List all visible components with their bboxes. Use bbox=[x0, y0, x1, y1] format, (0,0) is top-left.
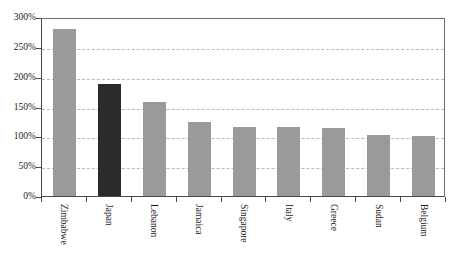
y-axis-tick-label: 100% bbox=[0, 133, 36, 143]
y-axis-tick-label: 300% bbox=[0, 13, 36, 23]
y-axis-tick-label: 50% bbox=[0, 162, 36, 172]
x-axis-category-label-text: Lebanon bbox=[148, 204, 158, 237]
x-axis-category-label-text: Sudan bbox=[373, 204, 383, 228]
bar bbox=[233, 127, 256, 196]
y-axis-tick-label: 250% bbox=[0, 43, 36, 53]
x-axis-tick-mark bbox=[176, 197, 177, 202]
bar bbox=[188, 122, 211, 196]
x-axis-category-label: Italy bbox=[268, 204, 308, 258]
x-axis-category-label: Japan bbox=[88, 204, 128, 258]
x-axis-tick-mark bbox=[310, 197, 311, 202]
x-axis-category-label-text: Zimbabwe bbox=[59, 204, 69, 245]
x-axis-category-label: Jamaica bbox=[178, 204, 218, 258]
x-axis-category-label: Singapore bbox=[223, 204, 263, 258]
x-axis-tick-mark bbox=[265, 197, 266, 202]
x-axis-category-label-text: Jamaica bbox=[193, 204, 203, 235]
x-axis-tick-mark bbox=[131, 197, 132, 202]
x-axis-category-label: Belgium bbox=[403, 204, 443, 258]
bar bbox=[98, 84, 121, 196]
x-axis-category-label-text: Italy bbox=[283, 204, 293, 221]
plot-area bbox=[41, 18, 445, 197]
bar bbox=[367, 135, 390, 196]
y-axis-tick-label: 150% bbox=[0, 103, 36, 113]
y-axis-tick-label: 200% bbox=[0, 73, 36, 83]
x-axis-category-label-text: Japan bbox=[104, 204, 114, 226]
y-axis-tick-label: 0% bbox=[0, 192, 36, 202]
x-axis-category-label-text: Belgium bbox=[418, 204, 428, 237]
gridline bbox=[42, 79, 444, 80]
x-axis-tick-mark bbox=[41, 197, 42, 202]
x-axis-category-label: Sudan bbox=[358, 204, 398, 258]
gridline bbox=[42, 49, 444, 50]
x-axis-category-label: Zimbabwe bbox=[43, 204, 83, 258]
x-axis-category-label-text: Singapore bbox=[238, 204, 248, 243]
bar bbox=[277, 127, 300, 196]
x-axis-tick-mark bbox=[400, 197, 401, 202]
x-axis-tick-mark bbox=[445, 197, 446, 202]
x-axis-tick-mark bbox=[86, 197, 87, 202]
bar bbox=[53, 29, 76, 196]
x-axis-category-label: Greece bbox=[313, 204, 353, 258]
bar-chart: 0%50%100%150%200%250%300% ZimbabweJapanL… bbox=[0, 0, 452, 259]
bar bbox=[322, 128, 345, 196]
x-axis-tick-mark bbox=[355, 197, 356, 202]
bar bbox=[143, 102, 166, 196]
x-axis-tick-mark bbox=[221, 197, 222, 202]
bar bbox=[412, 136, 435, 196]
x-axis-category-label: Lebanon bbox=[133, 204, 173, 258]
x-axis-category-label-text: Greece bbox=[328, 204, 338, 231]
